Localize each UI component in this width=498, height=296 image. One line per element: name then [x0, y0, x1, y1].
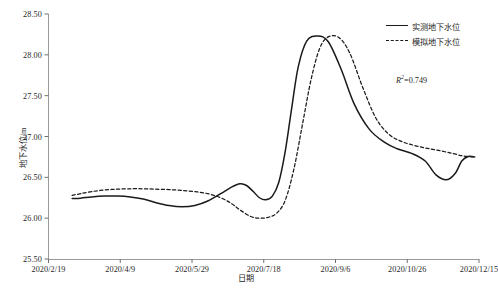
legend-line-solid-icon: [386, 22, 408, 29]
axis-lines: [49, 14, 480, 260]
y-axis-ticks: [45, 14, 49, 259]
y-tick-label: 26.50: [8, 173, 42, 182]
legend-item-measured: 实测地下水位: [386, 18, 490, 33]
y-tick-label: 26.00: [8, 214, 42, 223]
data-series-layer: [72, 36, 475, 219]
series-line-simulated: [72, 36, 475, 219]
r-squared-annotation: R2=0.749: [396, 74, 427, 85]
y-axis-title: 地下水位/m: [16, 128, 28, 169]
series-line-measured: [72, 36, 475, 207]
legend-item-simulated: 模拟地下水位: [386, 33, 490, 48]
x-axis-title: 日期: [0, 271, 492, 283]
legend-item-label: 实测地下水位: [412, 20, 460, 32]
y-tick-label: 28.00: [8, 50, 42, 59]
y-tick-label: 28.50: [8, 10, 42, 19]
legend-line-dashed-icon: [386, 37, 408, 44]
y-tick-label: 27.50: [8, 91, 42, 100]
y-tick-label: 25.50: [8, 255, 42, 264]
chart-legend: 实测地下水位 模拟地下水位: [386, 18, 490, 48]
legend-item-label: 模拟地下水位: [412, 35, 460, 47]
figure-caption: [0, 288, 492, 296]
r-squared-value: 0.749: [409, 76, 427, 85]
